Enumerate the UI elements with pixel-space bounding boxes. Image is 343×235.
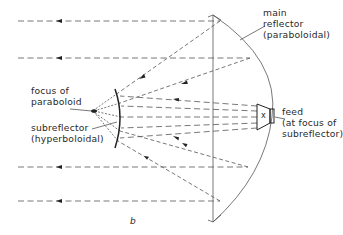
svg-text:focus of: focus of [31,85,69,96]
svg-text:(paraboloidal): (paraboloidal) [263,29,330,40]
subreflector-arc [115,89,120,148]
svg-text:feed: feed [282,106,303,117]
svg-text:(at focus of: (at focus of [282,117,337,128]
reflector-to-subreflector-rays [118,21,250,201]
subreflector-leader [92,122,117,129]
cassegrain-diagram: x main reflector (paraboloidal) focus of… [0,0,343,235]
feed-label: feed (at focus of subreflector) [282,106,343,139]
main-reflector-leader [240,26,265,40]
plane-wave-rays [18,19,250,203]
svg-text:reflector: reflector [263,18,304,29]
figure-caption: b [130,216,136,226]
main-reflector-label: main reflector (paraboloidal) [263,7,330,40]
svg-text:subreflector: subreflector [31,122,89,133]
feed-to-subreflector-rays [120,96,257,141]
svg-text:subreflector): subreflector) [282,128,343,139]
focus-label: focus of paraboloid [31,85,82,107]
focus-leader [70,109,92,111]
svg-text:paraboloid: paraboloid [31,96,82,107]
svg-text:(hyperboloidal): (hyperboloidal) [31,133,104,144]
reflector-top-tick [208,15,221,20]
feed-mark: x [261,111,266,120]
svg-text:main: main [263,7,287,18]
subreflector-label: subreflector (hyperboloidal) [31,122,104,144]
